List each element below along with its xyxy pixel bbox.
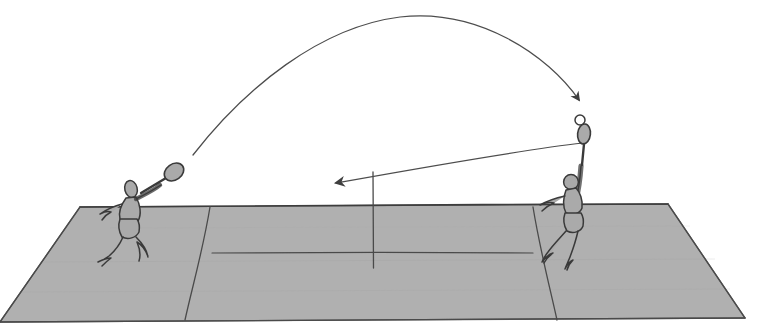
right-player-racket-head	[577, 123, 592, 144]
left-player-racket-arm-line	[136, 185, 161, 199]
trajectory-clear-arc	[193, 16, 579, 155]
left-player-racket-head	[161, 159, 187, 184]
right-player-head	[564, 175, 579, 190]
smash-line-path	[336, 143, 583, 183]
right-player-shorts	[564, 213, 583, 232]
badminton-diagram-svg	[0, 0, 760, 334]
clear-arc-path	[193, 16, 579, 155]
shuttle-group	[575, 115, 585, 125]
left-player-shorts	[119, 219, 139, 238]
right-player-torso	[564, 188, 582, 214]
right-player-racket-shaft	[582, 144, 584, 165]
net-post-line	[373, 172, 374, 268]
trajectory-smash-line	[336, 143, 583, 183]
shuttle-icon	[575, 115, 585, 125]
court-surface	[0, 204, 745, 322]
court-group	[0, 204, 745, 322]
net-group	[373, 172, 374, 268]
badminton-diagram-scene: Badminton overhead clear and smash rally…	[0, 0, 760, 334]
court-line-short-service	[212, 252, 533, 253]
left-player-head	[123, 179, 139, 199]
